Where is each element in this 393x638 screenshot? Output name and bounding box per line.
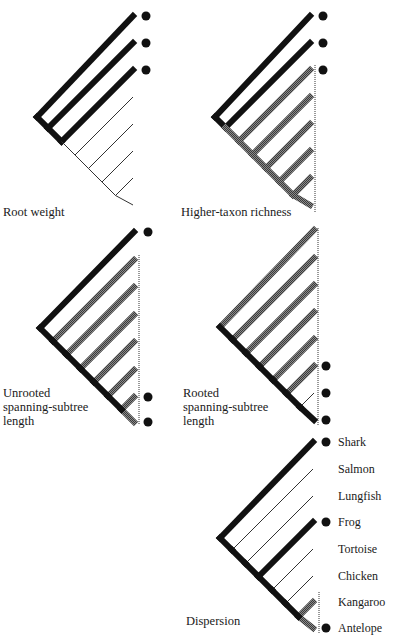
label-dispersion: Dispersion bbox=[186, 614, 240, 628]
branch-0 bbox=[40, 232, 134, 328]
taxon-kangaroo: Kangaroo bbox=[338, 595, 385, 609]
spine-2 bbox=[62, 142, 76, 156]
selected-taxon-dot bbox=[319, 66, 328, 75]
label-higher-taxon-richness: Higher-taxon richness bbox=[181, 205, 291, 219]
selected-taxon-dot bbox=[142, 12, 151, 21]
selected-taxon-dot bbox=[144, 393, 153, 402]
spine-3 bbox=[75, 155, 89, 169]
taxon-tortoise: Tortoise bbox=[338, 542, 377, 556]
selected-taxon-dot bbox=[322, 362, 331, 371]
selected-taxon-dot bbox=[322, 416, 331, 425]
spine-5 bbox=[286, 604, 299, 617]
taxon-salmon: Salmon bbox=[338, 462, 375, 476]
selected-taxon-dot bbox=[144, 228, 153, 237]
label-rooted-line3: length bbox=[183, 414, 214, 428]
selected-taxon-dot bbox=[322, 624, 331, 633]
branch-3 bbox=[253, 97, 311, 155]
branch-0 bbox=[215, 16, 310, 117]
tree-unrooted-spanning-subtree bbox=[40, 228, 153, 427]
taxon-frog: Frog bbox=[338, 515, 361, 529]
branch-3 bbox=[259, 522, 314, 577]
tree-rooted-spanning-subtree bbox=[220, 228, 331, 425]
taxon-shark: Shark bbox=[338, 435, 366, 449]
spine-5 bbox=[287, 394, 301, 408]
selected-taxon-dot bbox=[142, 39, 151, 48]
branch-3 bbox=[81, 315, 135, 369]
branch-3 bbox=[260, 312, 315, 367]
branch-0 bbox=[37, 16, 133, 117]
branch-6 bbox=[116, 178, 134, 196]
spine-1 bbox=[48, 128, 62, 142]
label-unrooted-line1: Unrooted bbox=[3, 386, 50, 400]
label-unrooted-line3: length bbox=[3, 414, 34, 428]
branch-7 bbox=[116, 196, 134, 206]
branch-5 bbox=[108, 370, 134, 396]
selected-taxon-dot bbox=[319, 12, 328, 21]
taxon-chicken: Chicken bbox=[338, 569, 378, 583]
branch-3 bbox=[75, 97, 133, 155]
selected-taxon-dot bbox=[322, 518, 331, 527]
selected-taxon-dot bbox=[319, 39, 328, 48]
selected-taxon-dot bbox=[142, 66, 151, 75]
selected-taxon-dot bbox=[144, 418, 153, 427]
spine-5 bbox=[102, 182, 116, 196]
label-rooted-line2: spanning-subtree bbox=[183, 400, 268, 414]
taxon-antelope: Antelope bbox=[338, 621, 382, 635]
branch-0 bbox=[220, 230, 314, 327]
branch-5 bbox=[280, 151, 311, 182]
spine-5 bbox=[108, 396, 122, 410]
branch-6 bbox=[299, 602, 314, 617]
tree-dispersion bbox=[220, 438, 331, 635]
branch-6 bbox=[293, 178, 310, 195]
branch-5 bbox=[102, 151, 133, 182]
branch-5 bbox=[287, 366, 315, 394]
spine-5 bbox=[280, 182, 294, 196]
tree-higher-taxon-richness bbox=[215, 12, 328, 213]
branch-5 bbox=[286, 576, 314, 604]
selected-taxon-dot bbox=[322, 389, 331, 398]
label-rooted-line1: Rooted bbox=[183, 386, 219, 400]
tree-root-weight bbox=[37, 12, 151, 206]
taxon-lungfish: Lungfish bbox=[338, 489, 381, 503]
branch-0 bbox=[220, 442, 313, 538]
label-unrooted-line2: spanning-subtree bbox=[3, 400, 88, 414]
branch-4 bbox=[89, 124, 134, 169]
selected-taxon-dot bbox=[322, 438, 331, 447]
spine-4 bbox=[89, 169, 103, 183]
label-root-weight: Root weight bbox=[3, 205, 64, 219]
